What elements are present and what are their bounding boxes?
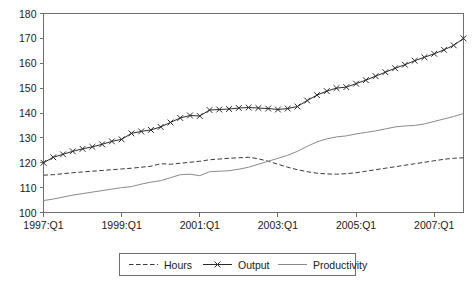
data-point-marker — [168, 120, 174, 126]
series-layer — [41, 35, 467, 200]
data-point-marker — [363, 77, 369, 83]
y-tick-label: 160 — [19, 57, 37, 69]
index-line-chart: 100110120130140150160170180 1997:Q11999:… — [0, 0, 473, 284]
y-tick-label: 110 — [20, 182, 37, 194]
y-axis-tick-labels: 100110120130140150160170180 — [19, 8, 37, 219]
data-point-marker — [392, 65, 398, 71]
x-axis-tick-labels: 1997:Q11999:Q12001:Q12003:Q12005:Q12007:… — [23, 219, 454, 231]
data-point-marker — [177, 115, 183, 121]
legend-label-hours: Hours — [164, 259, 192, 271]
data-point-marker — [70, 148, 76, 154]
x-tick-label: 1999:Q1 — [101, 219, 141, 231]
data-point-marker — [441, 47, 447, 53]
y-tick-label: 120 — [19, 157, 37, 169]
data-point-marker — [412, 58, 418, 64]
x-tick-label: 1997:Q1 — [23, 219, 63, 231]
data-point-marker — [324, 88, 330, 94]
data-point-marker — [422, 54, 428, 60]
legend-item-hours[interactable]: Hours — [129, 259, 192, 271]
series-line-output — [44, 38, 464, 162]
data-point-marker — [353, 81, 359, 87]
x-tick-label: 2003:Q1 — [258, 219, 298, 231]
x-tick-label: 2007:Q1 — [414, 219, 454, 231]
y-tick-label: 150 — [19, 82, 37, 94]
y-tick-label: 130 — [19, 132, 37, 144]
series-output — [41, 35, 467, 165]
y-axis-ticks — [40, 14, 44, 213]
data-point-marker — [50, 154, 56, 160]
data-point-marker — [99, 141, 105, 147]
series-markers-output — [41, 35, 467, 165]
legend-item-output[interactable]: Output — [203, 259, 270, 271]
y-tick-label: 140 — [19, 107, 37, 119]
series-line-productivity — [44, 113, 464, 200]
x-tick-label: 2001:Q1 — [180, 219, 220, 231]
data-point-marker — [382, 69, 388, 75]
x-axis-ticks — [44, 213, 435, 217]
chart-legend: HoursOutputProductivity — [120, 254, 369, 276]
plot-frame — [44, 14, 464, 213]
legend-label-output: Output — [238, 259, 270, 271]
data-point-marker — [60, 151, 66, 157]
x-tick-label: 2005:Q1 — [336, 219, 376, 231]
data-point-marker — [314, 92, 320, 98]
data-point-marker — [402, 62, 408, 68]
y-tick-label: 170 — [19, 32, 37, 44]
series-productivity — [44, 113, 464, 200]
chart-figure: 100110120130140150160170180 1997:Q11999:… — [0, 0, 473, 284]
data-point-marker — [451, 42, 457, 48]
legend-item-productivity[interactable]: Productivity — [278, 259, 368, 271]
y-tick-label: 100 — [19, 207, 37, 219]
legend-label-productivity: Productivity — [313, 259, 368, 271]
data-point-marker — [431, 51, 437, 57]
data-point-marker — [158, 124, 164, 130]
data-point-marker — [304, 98, 310, 104]
data-point-marker — [373, 73, 379, 79]
y-tick-label: 180 — [19, 8, 37, 20]
